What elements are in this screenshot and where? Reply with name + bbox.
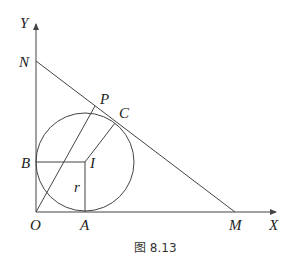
label-point-o: O — [30, 217, 41, 233]
label-y-axis: Y — [20, 15, 30, 31]
segment-op — [36, 106, 95, 212]
label-point-b: B — [21, 155, 30, 171]
label-point-n: N — [18, 54, 30, 70]
geometry-figure: Y X N P C B I r O A M 图 8.13 — [0, 0, 297, 262]
line-nm — [36, 61, 235, 212]
label-point-c: C — [119, 105, 130, 121]
figure-caption: 图 8.13 — [134, 241, 177, 255]
label-x-axis: X — [268, 217, 279, 233]
label-point-a: A — [79, 217, 90, 233]
label-point-m: M — [228, 217, 243, 233]
label-point-p: P — [99, 91, 109, 107]
label-point-i: I — [89, 155, 96, 171]
label-radius-r: r — [74, 179, 80, 195]
